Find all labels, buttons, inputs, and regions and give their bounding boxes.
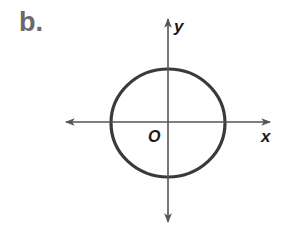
origin-label: O xyxy=(148,128,161,145)
y-axis-label: y xyxy=(173,17,185,36)
x-axis-label: x xyxy=(260,127,272,146)
coordinate-plane: y x O xyxy=(0,0,285,228)
